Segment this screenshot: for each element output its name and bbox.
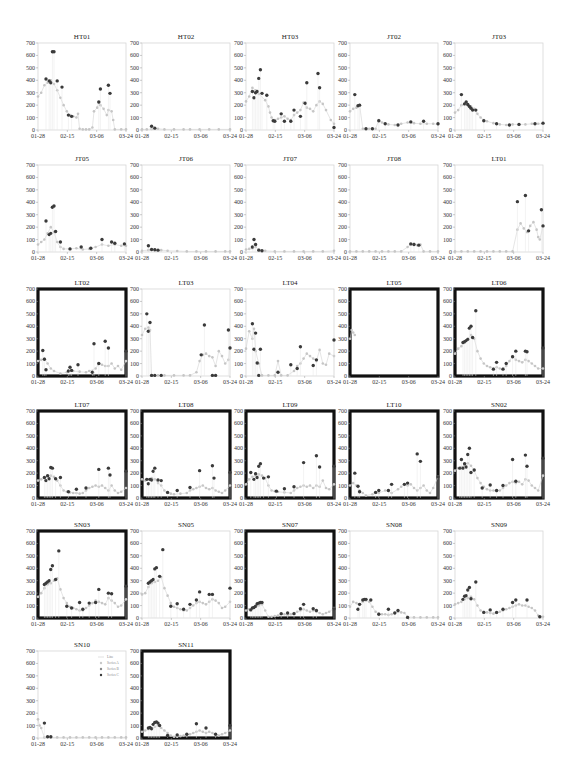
- svg-text:01-28: 01-28: [135, 741, 149, 747]
- svg-text:100: 100: [130, 723, 139, 729]
- small-multiples-grid: HT01010020030040050060070001-2802-1503-0…: [0, 0, 574, 766]
- svg-text:200: 200: [130, 710, 139, 716]
- panel-sn11: SN11010020030040050060070001-2802-1503-0…: [0, 0, 104, 122]
- svg-text:03-24: 03-24: [223, 741, 237, 747]
- svg-text:02-15: 02-15: [164, 741, 178, 747]
- svg-text:700: 700: [130, 648, 139, 654]
- chart-sn11: SN11010020030040050060070001-2802-1503-0…: [0, 0, 574, 766]
- panel-title: SN11: [178, 641, 194, 649]
- svg-text:500: 500: [130, 673, 139, 679]
- svg-text:400: 400: [130, 685, 139, 691]
- svg-text:300: 300: [130, 698, 139, 704]
- svg-text:03-06: 03-06: [194, 741, 208, 747]
- svg-text:600: 600: [130, 660, 139, 666]
- highlight-border: [142, 651, 230, 738]
